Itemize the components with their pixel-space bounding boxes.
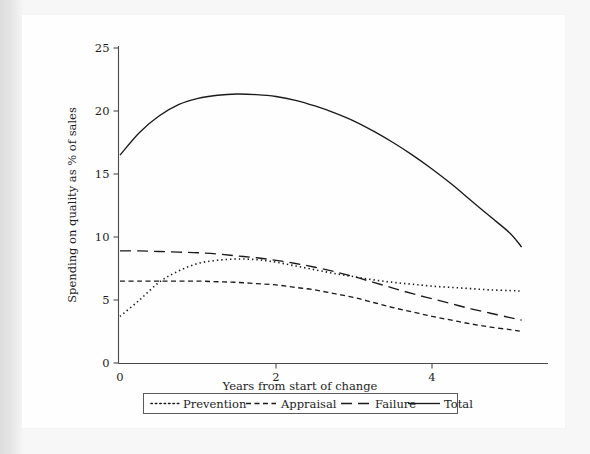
series-line-failure: [120, 251, 522, 320]
series-line-total: [120, 94, 522, 247]
y-tick-label: 10: [95, 230, 110, 244]
y-tick-label: 25: [95, 41, 110, 55]
series-group: [120, 94, 522, 332]
legend-label-appraisal: Appraisal: [280, 397, 337, 411]
y-axis-title: Spending on quality as % of sales: [65, 107, 79, 303]
y-tick-label: 5: [102, 293, 109, 307]
legend-entries: PreventionAppraisalFailureTotal: [151, 397, 473, 411]
x-axis-title: Years from start of change: [222, 379, 378, 393]
figure-root: 0510152025 024 Spending on quality as % …: [0, 0, 590, 454]
legend-label-total: Total: [444, 397, 473, 411]
legend-label-prevention: Prevention: [183, 397, 247, 411]
line-chart: 0510152025 024 Spending on quality as % …: [0, 0, 590, 454]
y-tick-label: 0: [102, 356, 109, 370]
x-tick-label: 4: [428, 370, 435, 384]
y-tick-label: 20: [95, 104, 110, 118]
y-tick-label: 15: [95, 167, 110, 181]
y-axis-ticks: 0510152025: [95, 41, 119, 370]
x-tick-label: 0: [116, 370, 123, 384]
series-line-prevention: [120, 259, 522, 316]
chart-canvas: 0510152025 024 Spending on quality as % …: [0, 0, 590, 454]
